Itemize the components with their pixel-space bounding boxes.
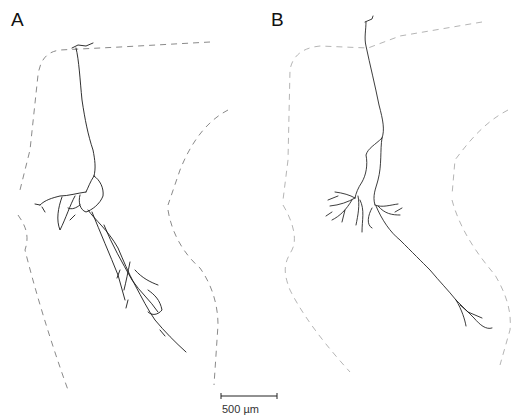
- panel-b-neuron: [326, 16, 492, 328]
- panel-a-neuron: [35, 43, 186, 352]
- panel-b-contours: [283, 22, 510, 372]
- figure-canvas: [0, 0, 532, 420]
- scale-bar-label: 500 µm: [222, 403, 259, 415]
- scale-bar: [221, 393, 277, 399]
- panel-a-contours: [18, 42, 228, 390]
